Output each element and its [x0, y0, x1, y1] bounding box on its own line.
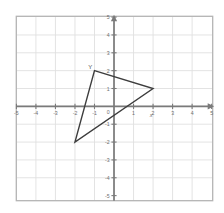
- y-tick-label: -1: [105, 121, 110, 127]
- annotations: x: [149, 112, 153, 118]
- x-axis-label: x: [149, 112, 153, 118]
- y-tick-label: -2: [105, 139, 110, 145]
- y-tick-label: 3: [107, 50, 110, 56]
- y-tick-label: 5: [107, 14, 110, 20]
- x-tick-label: 4: [191, 110, 194, 116]
- coordinate-plane-svg: -5-4-3-2-11234554321-1-2-3-4-50 Y x: [0, 0, 224, 213]
- y-tick-label: 2: [107, 68, 110, 74]
- y-tick-label: -4: [105, 175, 110, 181]
- x-tick-label: -2: [73, 110, 78, 116]
- y-tick-label: 1: [107, 86, 110, 92]
- x-tick-label: -3: [53, 110, 58, 116]
- y-tick-label: -3: [105, 157, 110, 163]
- x-tick-label: -1: [92, 110, 97, 116]
- x-tick-label: -4: [34, 110, 39, 116]
- coordinate-plane-figure: -5-4-3-2-11234554321-1-2-3-4-50 Y x: [0, 0, 224, 213]
- y-tick-label: -5: [105, 193, 110, 199]
- x-tick-label: 1: [132, 110, 135, 116]
- x-tick-label: 5: [210, 110, 213, 116]
- x-tick-label: 3: [171, 110, 174, 116]
- vertex-label-y: Y: [88, 64, 92, 70]
- vertex-labels: Y: [88, 64, 92, 70]
- y-tick-label: 4: [107, 32, 110, 38]
- origin-label: 0: [107, 109, 110, 115]
- x-tick-label: -5: [14, 110, 19, 116]
